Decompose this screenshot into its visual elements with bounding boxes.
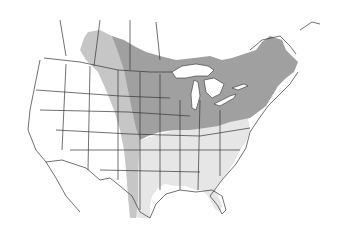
range-map bbox=[0, 0, 348, 229]
